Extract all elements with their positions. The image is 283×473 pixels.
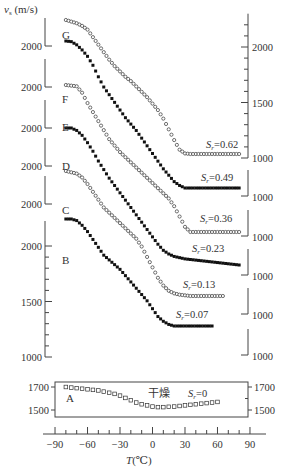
sr-label-g: Sr=0.62 [206,139,238,152]
right-tick-label: 1000 [252,310,273,321]
curve-label-b: B [62,254,69,266]
x-tick-label: −30 [112,439,128,450]
curve-label-d: D [62,160,70,172]
left-tick-label: 2000 [21,123,42,134]
panel-a-left-tick: 1700 [28,382,49,393]
x-tick-label: −60 [79,439,95,450]
x-tick-label: 0 [150,439,155,450]
x-tick-label: 30 [180,439,191,450]
series-f [64,40,240,190]
sr-label-b: Sr=0.07 [176,309,208,322]
panel-a-right-tick: 1700 [254,382,275,393]
sr-label-f: Sr=0.49 [201,172,233,185]
right-tick-label: 1000 [252,232,273,243]
right-tick-label: 1000 [252,153,273,164]
left-tick-label: 2000 [21,241,42,252]
x-tick-label: −90 [47,439,63,450]
y-axis-title: vs (m/s) [4,3,38,17]
panel-a-right-tick: 1500 [254,405,275,416]
left-tick-label: 2000 [21,82,42,93]
left-tick-label: 1500 [21,297,42,308]
x-tick-label: 60 [212,439,223,450]
curve-label-e: E [62,121,69,133]
x-axis-title: T(℃) [126,454,152,467]
curve-label-a: A [66,392,74,404]
sr-label-a: Sr=0 [188,388,207,401]
curve-label-f: F [62,93,68,105]
chart-canvas: 2000200020002000200020001500100010001500… [0,0,283,473]
right-tick-label: 1000 [252,271,273,282]
left-tick-label: 2000 [21,161,42,172]
series-g [64,18,240,155]
panel-a-left-tick: 1500 [28,405,49,416]
sr-label-d: Sr=0.23 [192,243,224,256]
dry-label: 干燥 [148,387,170,399]
left-tick-label: 2000 [21,41,42,52]
right-tick-label: 1500 [252,98,273,109]
velocity-temperature-chart: 2000200020002000200020001500100010001500… [0,0,283,473]
x-tick-label: 90 [245,439,256,450]
curve-label-g: G [62,29,70,41]
curve-label-c: C [62,204,69,216]
left-tick-label: 2000 [21,199,42,210]
sr-label-e: Sr=0.36 [200,213,232,226]
axes [43,14,266,434]
right-tick-label: 1000 [252,351,273,362]
right-tick-label: 1000 [252,192,273,203]
right-tick-label: 2000 [252,42,273,53]
left-tick-label: 1000 [21,352,42,363]
series-e [64,83,240,233]
sr-label-c: Sr=0.13 [183,279,215,292]
